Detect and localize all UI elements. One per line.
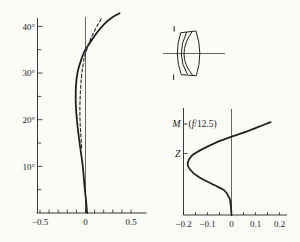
aberration-figure: −0.500.510°20°30°40° −0.2−0.100.10.2MZ (…	[0, 0, 300, 242]
ray-zone-label: M	[171, 118, 181, 129]
y-tick-label: 20°	[22, 115, 35, 125]
y-tick-label: 40°	[22, 22, 35, 32]
solid-field-curve	[76, 13, 120, 213]
lens-cross-section-diagram	[163, 26, 225, 80]
x-tick-label: 0.1	[250, 219, 261, 229]
y-tick-label: 30°	[22, 68, 35, 78]
x-tick-label: −0.1	[199, 219, 215, 229]
x-tick-label: 0	[83, 217, 88, 227]
aperture-label-suffix: /12.5)	[194, 119, 216, 130]
figure-canvas: −0.500.510°20°30°40° −0.2−0.100.10.2MZ (…	[0, 0, 300, 242]
x-tick-label: 0.5	[125, 217, 137, 227]
spherical-aberration-plot: −0.2−0.100.10.2MZ (f/12.5)	[171, 108, 287, 229]
dashed-field-curve	[80, 18, 102, 148]
x-tick-label: 0	[229, 219, 234, 229]
x-tick-label: −0.5	[32, 217, 49, 227]
x-tick-label: 0.2	[274, 219, 285, 229]
x-tick-label: −0.2	[175, 219, 191, 229]
y-tick-label: 10°	[22, 162, 35, 172]
sa-plot-tick-labels: −0.2−0.100.10.2MZ	[171, 118, 285, 228]
field-curvature-plot: −0.500.510°20°30°40°	[22, 13, 146, 226]
ray-zone-label: Z	[175, 148, 181, 159]
spherical-aberration-curve	[188, 122, 271, 215]
aperture-label: (f/12.5)	[189, 119, 217, 130]
